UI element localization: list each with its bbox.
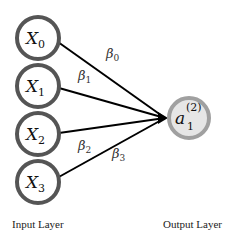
input-node-2: X2 [17,113,59,155]
input-node-3: X3 [17,161,59,203]
edge-x2 [59,118,165,133]
edge-x1 [59,88,165,118]
svg-text:a: a [175,108,185,128]
arrowhead [158,112,168,124]
weight-label-3: β3 [111,146,126,163]
edge-x3 [57,118,165,178]
weight-label-0: β0 [105,46,120,63]
weight-label-2: β2 [77,138,91,155]
neural-network-diagram: X0 X1 X2 X3 a 1 (2) β0 β1 β2 β3 [0,0,240,244]
svg-text:1: 1 [187,120,194,133]
input-layer-label: Input Layer [12,218,64,230]
svg-text:(2): (2) [186,101,202,114]
weight-label-1: β1 [77,68,91,85]
input-node-0: X0 [17,17,59,59]
input-node-1: X1 [17,65,59,107]
output-layer-label: Output Layer [163,218,222,230]
output-node: a 1 (2) [169,98,209,138]
